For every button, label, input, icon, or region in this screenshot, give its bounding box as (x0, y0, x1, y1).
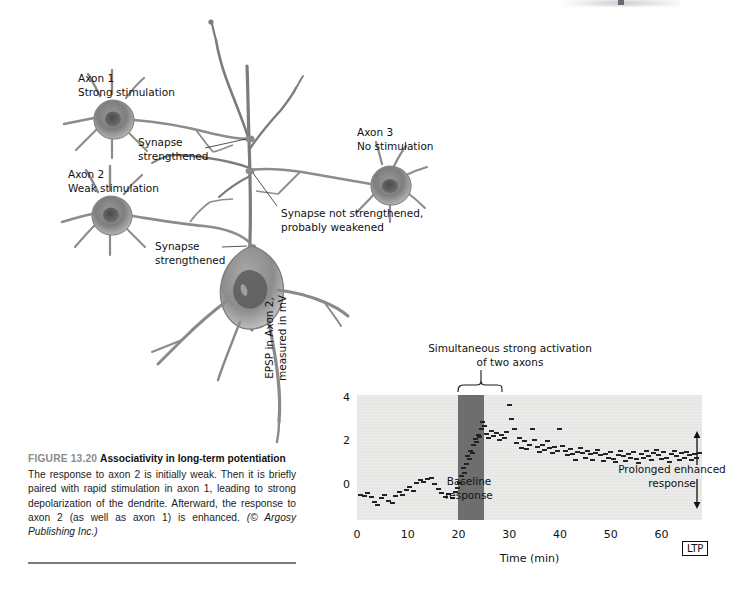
x-axis-tick-label: 60 (649, 528, 673, 541)
caption-divider (28, 562, 296, 564)
ltp-arrow (357, 395, 702, 520)
annotation-simultaneous-activation: Simultaneous strong activation of two ax… (385, 342, 635, 369)
y-axis-tick-label: 0 (330, 478, 350, 491)
x-axis-tick-label: 40 (548, 528, 572, 541)
x-axis-title: Time (min) (357, 552, 702, 565)
figure-caption-body: The response to axon 2 is initially weak… (28, 468, 296, 539)
plot-area: Baseline response Prolonged enhanced res… (357, 395, 702, 520)
x-axis-tick-label: 50 (599, 528, 623, 541)
label-synapse-strengthened-bottom: Synapse strengthened (155, 240, 225, 267)
y-axis-title: EPSP in Axon 2, measured in mV (263, 278, 289, 398)
x-axis-tick-label: 20 (446, 528, 470, 541)
label-axon-2: Axon 2 Weak stimulation (68, 168, 159, 195)
label-axon-3: Axon 3 No stimulation (357, 126, 433, 153)
label-synapse-not-strengthened: Synapse not strengthened, probably weake… (281, 207, 423, 234)
x-axis-tick-label: 0 (345, 528, 369, 541)
x-axis-tick-label: 10 (396, 528, 420, 541)
figure-caption: FIGURE 13.20 Associativity in long-term … (28, 452, 296, 539)
label-synapse-strengthened-top: Synapse strengthened (138, 136, 208, 163)
figure-title: Associativity in long-term potentiation (100, 453, 286, 464)
ltp-chart: Simultaneous strong activation of two ax… (300, 340, 717, 593)
figure-number: FIGURE 13.20 (28, 453, 97, 464)
y-axis-tick-label: 2 (330, 434, 350, 447)
y-axis-tick-label: 4 (330, 391, 350, 404)
scan-artifact-dot (618, 0, 624, 5)
x-axis-tick-label: 30 (497, 528, 521, 541)
label-axon-1: Axon 1 Strong stimulation (78, 72, 175, 99)
